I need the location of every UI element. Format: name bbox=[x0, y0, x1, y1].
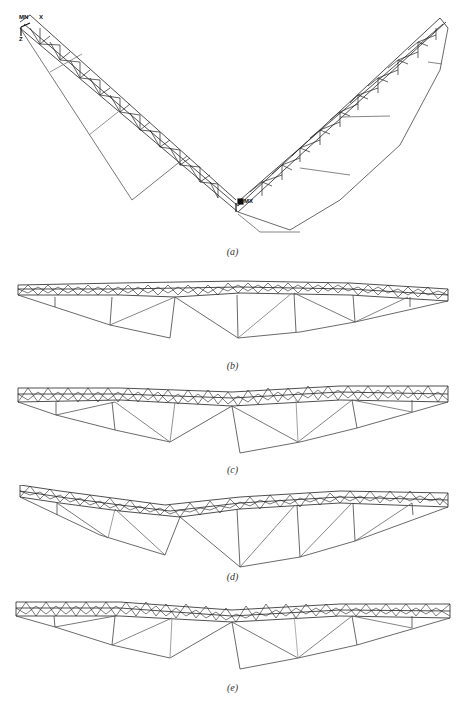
triad-label-x: X bbox=[39, 14, 43, 20]
caption-c: (c) bbox=[0, 464, 465, 475]
panel-d: (d) bbox=[0, 485, 465, 585]
truss-mode-shape-d bbox=[0, 485, 465, 580]
triad-label-z: Z bbox=[19, 36, 23, 42]
caption-a: (a) bbox=[0, 246, 465, 257]
panel-c: (c) bbox=[0, 380, 465, 480]
panel-e: (e) bbox=[0, 590, 465, 705]
panel-b: (b) bbox=[0, 265, 465, 375]
triad-label-mn: MN bbox=[19, 14, 28, 20]
caption-b: (b) bbox=[0, 360, 465, 371]
caption-d: (d) bbox=[0, 571, 465, 582]
truss-mode-shape-e bbox=[0, 590, 465, 680]
panel-a: MN X Z MX (a) bbox=[0, 0, 465, 260]
truss-mode-shape-c bbox=[0, 380, 465, 475]
truss-mode-shape-a bbox=[0, 0, 465, 240]
truss-mode-shape-b bbox=[0, 265, 465, 365]
triad-label-mx: MX bbox=[244, 198, 253, 204]
caption-e: (e) bbox=[0, 682, 465, 693]
